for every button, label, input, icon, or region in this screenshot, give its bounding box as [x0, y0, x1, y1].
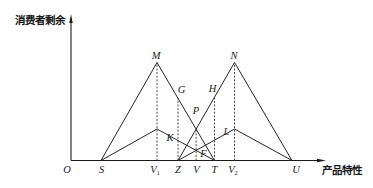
point-labels: M N G H P K L F [151, 50, 239, 159]
y-axis-label: 消费者剩余 [15, 14, 66, 26]
label-O: O [63, 164, 71, 175]
label-H: H [208, 83, 218, 94]
axes [69, 14, 326, 162]
label-N: N [229, 50, 238, 61]
label-F: F [199, 148, 207, 159]
consumer-surplus-diagram: 消费者剩余 产品特性 M N G H P K L F O S V1 Z V T … [0, 0, 373, 188]
x-axis-label: 产品特性 [322, 164, 363, 176]
label-S: S [99, 164, 105, 175]
label-T: T [212, 164, 219, 175]
x-axis-arrow-icon [317, 159, 326, 162]
label-U: U [292, 164, 301, 175]
label-V1: V1 [150, 164, 160, 176]
label-G: G [178, 84, 186, 95]
y-axis-arrow-icon [69, 14, 72, 23]
label-P: P [192, 105, 200, 116]
label-L: L [223, 126, 230, 137]
small-left-triangle-S-T [101, 129, 215, 161]
label-Z: Z [175, 164, 181, 175]
label-V1-sub: 1 [157, 169, 160, 176]
label-V2-sub: 2 [235, 169, 238, 176]
label-V2: V2 [228, 164, 238, 176]
x-axis-point-labels: O S V1 Z V T V2 U [63, 164, 301, 176]
label-K: K [165, 132, 174, 143]
label-M: M [151, 50, 162, 61]
label-V: V [193, 164, 201, 175]
small-right-triangle-Z-U [178, 129, 292, 161]
